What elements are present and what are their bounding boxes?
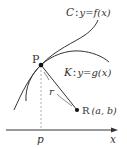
curve-k-label: K:y=g(x) — [63, 66, 111, 78]
tangent-curves-diagram: C:y=f(x) K:y=g(x) P R(a, b) r p x — [0, 0, 127, 149]
tick-p-label: p — [37, 133, 44, 145]
point-p-label: P — [32, 53, 40, 66]
x-axis — [6, 128, 118, 133]
axis-arrow-icon — [111, 128, 118, 133]
segment-r-label: r — [49, 86, 55, 97]
x-axis-label: x — [110, 133, 116, 145]
arc-tick — [44, 72, 49, 80]
point-r — [75, 108, 79, 112]
point-r-label: R(a, b) — [82, 105, 117, 116]
curve-c-label: C:y=f(x) — [66, 6, 111, 18]
r-leader-line — [57, 94, 72, 106]
curve-c — [14, 20, 98, 110]
